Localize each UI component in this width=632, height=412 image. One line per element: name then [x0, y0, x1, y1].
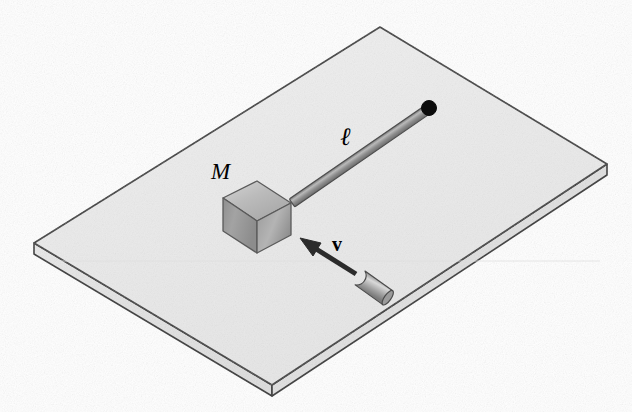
mass-label-M: M — [211, 160, 230, 183]
velocity-label-v: v — [332, 234, 342, 254]
length-label-ell: ℓ — [340, 124, 350, 149]
table-group — [34, 27, 607, 396]
physics-figure: M ℓ v — [0, 0, 632, 412]
pivot-dot-icon — [422, 101, 437, 116]
scene-canvas — [0, 0, 632, 412]
table-top-surface — [34, 27, 607, 385]
